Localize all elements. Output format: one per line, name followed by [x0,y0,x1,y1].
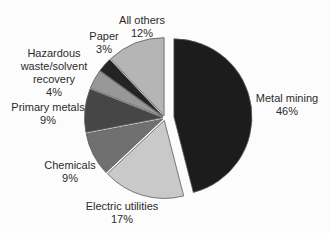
pie-label-line: Electric utilities [86,200,159,212]
pie-label-all-others: All others12% [119,14,165,39]
pie-label-line: All others [119,14,165,26]
pie-label-metal-mining: Metal mining46% [256,92,318,117]
pie-label-line: 9% [40,114,56,126]
pie-label-line: Paper [89,30,119,42]
pie-label-line: 3% [96,43,112,55]
pie-label-line: 46% [276,105,298,117]
pie-chart-figure: Metal mining46%Electric utilities17%Chem… [0,0,330,233]
pie-label-line: waste/solvent [20,60,88,72]
pie-label-line: 4% [46,86,62,98]
pie-label-paper: Paper3% [89,30,119,55]
pie-label-line: Primary metals [11,101,85,113]
pie-label-line: 9% [62,172,78,184]
pie-label-chemicals: Chemicals9% [44,159,96,184]
pie-label-line: Metal mining [256,92,318,104]
pie-label-hazardous-waste-solvent-recovery: Hazardouswaste/solventrecovery4% [20,47,88,98]
pie-label-line: 17% [111,213,133,225]
pie-slice-metal-mining [174,39,252,193]
pie-label-primary-metals: Primary metals9% [11,101,85,126]
pie-label-line: 12% [131,27,153,39]
pie-label-line: recovery [33,73,76,85]
pie-label-line: Hazardous [27,47,81,59]
pie-label-electric-utilities: Electric utilities17% [86,200,159,225]
pie-label-line: Chemicals [44,159,96,171]
pie-chart-svg: Metal mining46%Electric utilities17%Chem… [0,0,330,233]
